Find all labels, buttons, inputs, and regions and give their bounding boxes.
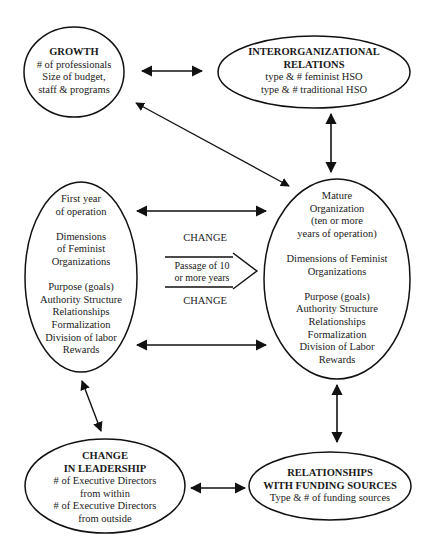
- leadership-title: IN LEADERSHIP: [26, 463, 184, 476]
- first-year-dimensions-heading: Dimensions: [26, 231, 136, 244]
- growth-metric: staff & programs: [24, 84, 124, 97]
- mature-dimension: Division of Labor: [266, 341, 408, 354]
- funding-title: RELATIONSHIPS: [250, 467, 410, 480]
- leadership-metric: # of Executive Directors: [26, 500, 184, 513]
- mature-dimension: Rewards: [266, 354, 408, 367]
- leadership-title: CHANGE: [26, 450, 184, 463]
- first-year-dimension: Formalization: [26, 319, 136, 332]
- mature-header: Organization: [266, 203, 408, 216]
- mature-node: Mature Organization (ten or more years o…: [266, 190, 408, 366]
- growth-title: GROWTH: [24, 46, 124, 59]
- funding-title: WITH FUNDING SOURCES: [250, 480, 410, 493]
- first-year-dimension: Rewards: [26, 344, 136, 357]
- interorganizational-metric: type & # traditional HSO: [219, 84, 409, 97]
- growth-metric: # of professionals: [24, 59, 124, 72]
- mature-header: years of operation): [266, 228, 408, 241]
- growth-metric: Size of budget,: [24, 71, 124, 84]
- funding-metric: Type & # of funding sources: [250, 492, 410, 505]
- first-year-dimensions-heading: of Feminist: [26, 243, 136, 256]
- mature-dimension: Purpose (goals): [266, 291, 408, 304]
- first-year-dimension: Relationships: [26, 306, 136, 319]
- first-year-header: of operation: [26, 206, 136, 219]
- mature-dimensions-heading: Organizations: [266, 266, 408, 279]
- interorganizational-title: INTERORGANIZATIONAL: [219, 46, 409, 59]
- first-year-header: First year: [26, 193, 136, 206]
- mature-dimension: Authority Structure: [266, 303, 408, 316]
- first-year-dimension: Division of labor: [26, 332, 136, 345]
- first-year-dimensions-heading: Organizations: [26, 256, 136, 269]
- funding-node: RELATIONSHIPS WITH FUNDING SOURCES Type …: [250, 467, 410, 505]
- arrow-growth-mature: [136, 103, 289, 186]
- leadership-metric: from outside: [26, 513, 184, 526]
- change-label-top: CHANGE: [165, 232, 245, 243]
- mature-dimension: Formalization: [266, 329, 408, 342]
- mature-dimensions-heading: Dimensions of Feminist: [266, 253, 408, 266]
- mature-header: (ten or more: [266, 215, 408, 228]
- interorganizational-metric: type & # feminist HSO: [219, 71, 409, 84]
- interorganizational-node: INTERORGANIZATIONAL RELATIONS type & # f…: [219, 46, 409, 96]
- mature-dimension: Relationships: [266, 316, 408, 329]
- leadership-metric: # of Executive Directors: [26, 475, 184, 488]
- first-year-dimension: Purpose (goals): [26, 281, 136, 294]
- change-label-bottom: CHANGE: [165, 295, 245, 306]
- passage-label: Passage of 10 or more years: [165, 260, 239, 284]
- leadership-node: CHANGE IN LEADERSHIP # of Executive Dire…: [26, 450, 184, 526]
- interorganizational-title: RELATIONS: [219, 59, 409, 72]
- growth-node: GROWTH # of professionals Size of budget…: [24, 46, 124, 96]
- first-year-node: First year of operation Dimensions of Fe…: [26, 193, 136, 357]
- arrow-first-year-leadership: [82, 381, 101, 431]
- first-year-dimension: Authority Structure: [26, 294, 136, 307]
- mature-header: Mature: [266, 190, 408, 203]
- leadership-metric: from within: [26, 488, 184, 501]
